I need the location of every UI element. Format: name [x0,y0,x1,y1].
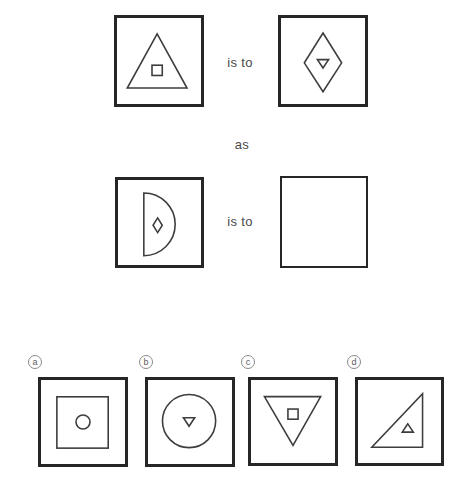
relation-text-is-to-2: is to [212,214,268,230]
option-c-figure[interactable] [248,377,338,466]
option-a-label[interactable]: a [28,355,42,369]
option-a-figure[interactable] [38,377,128,467]
answer-blank-cell [280,176,368,268]
figure-halfcircle-with-diamond [115,177,204,268]
figure-diamond-with-triangle [278,15,368,107]
option-b-label[interactable]: b [139,355,153,369]
analogy-puzzle-page: is to as is to a b c d [0,0,463,483]
connector-text-as: as [214,137,270,153]
figure-triangle-with-square [114,15,204,107]
option-d-label[interactable]: d [347,355,361,369]
relation-text-is-to-1: is to [212,55,268,71]
option-b-figure[interactable] [145,377,235,467]
option-d-figure[interactable] [355,377,444,466]
option-c-label[interactable]: c [241,355,255,369]
